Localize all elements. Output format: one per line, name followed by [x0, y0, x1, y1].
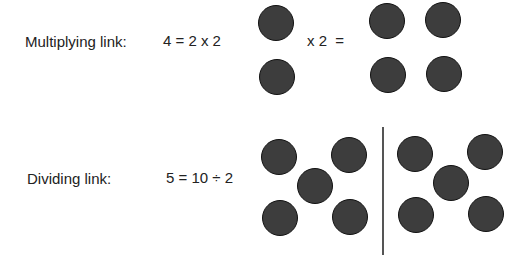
dot	[398, 197, 434, 233]
dot	[426, 56, 462, 92]
dot	[369, 3, 405, 39]
dot	[370, 57, 406, 93]
dot	[425, 2, 461, 38]
dot	[259, 59, 295, 95]
multiplying-label: Multiplying link:	[25, 33, 127, 50]
dividing-equation: 5 = 10 ÷ 2	[166, 169, 233, 186]
multiplying-equation: 4 = 2 x 2	[163, 32, 221, 49]
dot	[331, 137, 367, 173]
divider-line	[382, 127, 384, 255]
dot	[332, 199, 368, 235]
dot	[297, 168, 333, 204]
dot	[258, 5, 294, 41]
dot	[433, 165, 469, 201]
dot	[261, 139, 297, 175]
dot	[468, 196, 504, 232]
dot	[262, 200, 298, 236]
dot	[467, 134, 503, 170]
dot	[397, 136, 433, 172]
multiplying-operator: x 2 =	[307, 32, 344, 49]
dividing-label: Dividing link:	[27, 170, 111, 187]
